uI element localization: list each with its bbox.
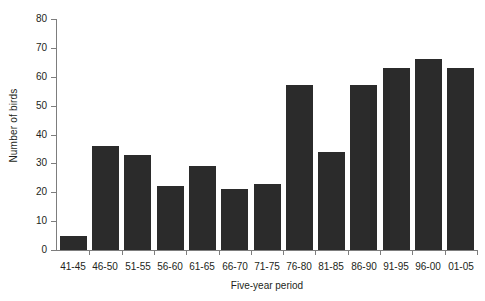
x-axis-tick [412,251,413,255]
bar [157,186,184,250]
x-axis-tick [186,251,187,255]
y-axis-tick-label: 40 [0,130,47,140]
y-axis-tick-label: 60 [0,72,47,82]
bar [60,236,87,250]
x-axis-title: Five-year period [57,280,477,291]
bar [318,152,345,250]
x-axis-tick-label: 41-45 [57,261,89,272]
x-axis-tick-label: 81-85 [315,261,347,272]
y-axis-tick-label: 10 [0,216,47,226]
bar [415,59,442,250]
bar [350,85,377,250]
x-axis-tick [122,251,123,255]
y-axis-tick [51,106,56,107]
x-axis-tick-label: 61-65 [186,261,218,272]
x-axis-tick-label: 66-70 [219,261,251,272]
y-axis-tick-label: 70 [0,43,47,53]
y-axis-tick [51,135,56,136]
x-axis-tick-label: 01-05 [445,261,477,272]
bar [92,146,119,250]
bar [221,189,248,250]
x-axis-title-label: Five-year period [231,280,303,291]
x-axis-tick [477,251,478,255]
bar [447,68,474,250]
y-axis-line [56,19,57,251]
bar [383,68,410,250]
bar [254,184,281,250]
y-axis-tick [51,221,56,222]
x-axis-tick [445,251,446,255]
x-axis-tick-label: 46-50 [89,261,121,272]
bar [189,166,216,250]
y-axis-tick-label: 30 [0,158,47,168]
y-axis-tick [51,19,56,20]
y-axis-tick [51,250,56,251]
x-axis-tick-label: 96-00 [412,261,444,272]
x-axis-tick [315,251,316,255]
x-axis-tick [219,251,220,255]
y-axis-tick-label: 20 [0,187,47,197]
x-axis-tick-label: 86-90 [348,261,380,272]
x-axis-line [56,250,478,251]
x-axis-tick-label: 51-55 [122,261,154,272]
y-axis-tick-label: 80 [0,14,47,24]
x-axis-tick-label: 71-75 [251,261,283,272]
y-axis-tick [51,48,56,49]
x-axis-tick [154,251,155,255]
bar-chart-figure: Number of birds 01020304050607080 41-454… [0,0,485,301]
y-axis-tick [51,163,56,164]
x-axis-tick-label: 56-60 [154,261,186,272]
x-axis-tick [348,251,349,255]
x-axis-tick [380,251,381,255]
x-axis-tick [251,251,252,255]
x-axis-tick-label: 91-95 [380,261,412,272]
bar [286,85,313,250]
y-axis-tick [51,192,56,193]
y-axis-title-label: Number of birds [8,88,19,162]
y-axis-tick-label: 50 [0,101,47,111]
x-axis-tick [283,251,284,255]
x-axis-tick [89,251,90,255]
y-axis-tick-label: 0 [0,245,47,255]
bar [124,155,151,250]
x-axis-tick-label: 76-80 [283,261,315,272]
y-axis-title: Number of birds [0,0,26,250]
y-axis-tick [51,77,56,78]
